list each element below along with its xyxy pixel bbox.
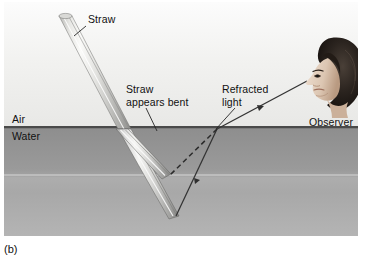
label-water: Water [12,130,40,143]
label-refracted-light: Refractedlight [222,83,268,108]
leader-line-refracted [216,108,235,129]
refraction-diagram: Air Water Straw Strawappears bent Refrac… [4,2,358,236]
leader-line-straw-bent [146,108,157,131]
label-straw-appears-bent: Strawappears bent [126,83,189,108]
straw-above-water [59,13,131,129]
ray-arrowhead-lower [194,178,200,184]
figure-caption: (b) [4,243,17,255]
label-straw: Straw [88,13,115,26]
observer-head-icon [301,34,358,118]
apparent-ray-dashed [169,129,217,176]
figure-stage: Air Water Straw Strawappears bent Refrac… [0,0,380,264]
label-observer: Observer [309,116,353,129]
label-air: Air [12,113,25,126]
